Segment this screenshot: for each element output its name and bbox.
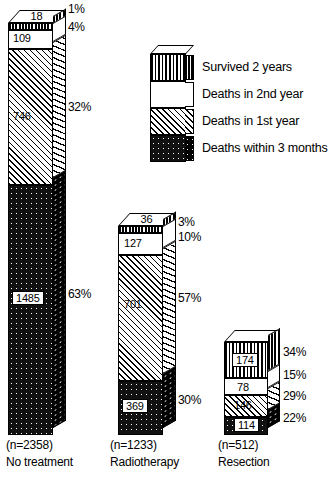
bar1-survived-value: 18	[8, 11, 59, 22]
legend-swatch-deaths-3mo-side	[185, 136, 194, 161]
bar2-survived-value: 36	[118, 214, 169, 225]
bar2-deaths-1st-value: 701	[124, 298, 142, 310]
legend-lid-face	[150, 45, 194, 54]
bar2-sample-size: (n=1233)	[110, 438, 179, 452]
bar1-pct-survived: 1%	[68, 3, 85, 15]
bar1-top-lid: 18	[8, 10, 53, 23]
bar3-deaths-2nd-value: 78	[237, 381, 249, 393]
bar3-deaths-1st-value: 146	[234, 399, 252, 411]
bar2-pct-deaths-2nd: 10%	[178, 231, 201, 243]
bar1-deaths-3mo-side-face	[53, 170, 66, 428]
bar1-pct-deaths-1st: 32%	[68, 101, 91, 113]
legend-swatch-survived	[150, 54, 186, 81]
bar-radiotherapy: 36 127 701 369	[118, 213, 176, 435]
bar1-segment-deaths-3mo	[8, 185, 53, 435]
bar1-pct-deaths-2nd: 4%	[68, 21, 85, 33]
bar3-caption: (n=512) Resection	[218, 438, 270, 469]
bar3-pct-deaths-3mo: 22%	[283, 412, 306, 424]
legend-swatch-deaths-1st	[150, 108, 186, 135]
bar-no-treatment: 18 109 746 1485	[8, 10, 66, 435]
bar2-segment-survived	[118, 226, 163, 233]
legend-label-deaths-3mo: Deaths within 3 months	[202, 142, 328, 155]
bar1-segment-survived	[8, 23, 53, 30]
bar3-label: Resection	[218, 455, 270, 469]
bar1-label: No treatment	[6, 455, 73, 469]
legend-swatch-survived-side	[185, 55, 194, 80]
bar2-pct-survived: 3%	[178, 216, 195, 228]
bar1-deaths-1st-side-face	[53, 34, 66, 178]
bar1-pct-deaths-3mo: 63%	[68, 288, 91, 300]
bar2-segment-deaths-1st	[118, 255, 163, 381]
legend-label-survived: Survived 2 years	[202, 61, 292, 74]
bar2-deaths-2nd-value: 127	[124, 237, 142, 249]
bar2-top-lid: 36	[118, 213, 163, 226]
bar2-deaths-3mo-value: 369	[122, 399, 148, 413]
bar-resection: 174 78 146 114	[224, 330, 280, 435]
bar3-pct-deaths-2nd: 15%	[283, 369, 306, 381]
bar3-top-lid	[224, 330, 268, 342]
chart-legend: Survived 2 years Deaths in 2nd year Deat…	[150, 54, 325, 162]
bar2-caption: (n=1233) Radiotherapy	[110, 438, 179, 469]
bar2-deaths-1st-side-face	[163, 240, 176, 374]
legend-swatch-deaths-3mo	[150, 135, 186, 162]
bar1-sample-size: (n=2358)	[6, 438, 73, 452]
bar3-survived-value: 174	[232, 353, 258, 367]
bar2-pct-deaths-1st: 57%	[178, 292, 201, 304]
legend-swatch-deaths-1st-side	[185, 109, 194, 134]
bar1-deaths-3mo-value: 1485	[12, 291, 44, 305]
bar3-pct-survived: 34%	[283, 346, 306, 358]
legend-label-deaths-1st: Deaths in 1st year	[202, 115, 299, 128]
bar1-caption: (n=2358) No treatment	[6, 438, 73, 469]
bar3-sample-size: (n=512)	[218, 438, 270, 452]
legend-top-lid	[150, 45, 186, 54]
bar3-deaths-3mo-value: 114	[234, 418, 259, 432]
bar1-deaths-1st-value: 746	[13, 110, 31, 122]
bar2-label: Radiotherapy	[110, 455, 179, 469]
legend-swatch-deaths-2nd-side	[185, 82, 194, 107]
legend-swatch-deaths-2nd	[150, 81, 186, 108]
bar1-deaths-2nd-value: 109	[13, 32, 31, 44]
legend-label-deaths-2nd: Deaths in 2nd year	[202, 88, 303, 101]
bar2-deaths-3mo-side-face	[163, 366, 176, 428]
bar2-pct-deaths-3mo: 30%	[178, 394, 201, 406]
bar3-pct-deaths-1st: 29%	[283, 390, 306, 402]
